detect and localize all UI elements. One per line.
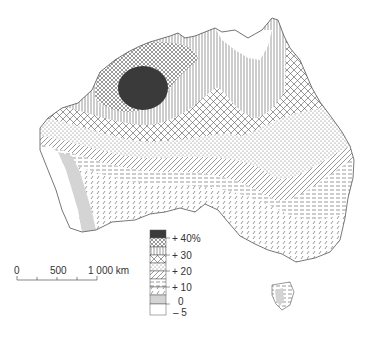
band-solid-dark — [118, 66, 168, 110]
legend-swatch-diamond-crosshatch — [150, 255, 166, 263]
legend-label-10: + 10 — [172, 282, 192, 293]
legend-swatch-vertical-lines — [150, 247, 166, 255]
legend-swatch-solid-dark — [150, 230, 166, 238]
legend-swatch-horizontal-dashes — [150, 279, 166, 287]
legend-label-40: + 40% — [172, 233, 201, 244]
tasmania — [272, 282, 294, 310]
legend-swatch-light-gray — [150, 295, 166, 304]
legend-label-0: 0 — [178, 296, 184, 307]
legend — [150, 230, 170, 315]
legend-swatch-diagonal-lines — [150, 271, 166, 279]
scale-label-0: 0 — [14, 265, 20, 276]
scale-label-1000km: 1 000 km — [88, 265, 129, 276]
legend-label-30: + 30 — [172, 250, 192, 261]
legend-swatch-dots — [150, 263, 166, 271]
legend-swatch-fine-crosshatch — [150, 238, 166, 247]
scale-bar — [17, 276, 97, 280]
legend-swatch-white — [150, 304, 166, 315]
legend-swatch-small-diagonal-dashes — [150, 287, 166, 295]
scale-label-500: 500 — [50, 265, 67, 276]
legend-label-minus-5: – 5 — [173, 307, 187, 318]
legend-label-20: + 20 — [172, 266, 192, 277]
